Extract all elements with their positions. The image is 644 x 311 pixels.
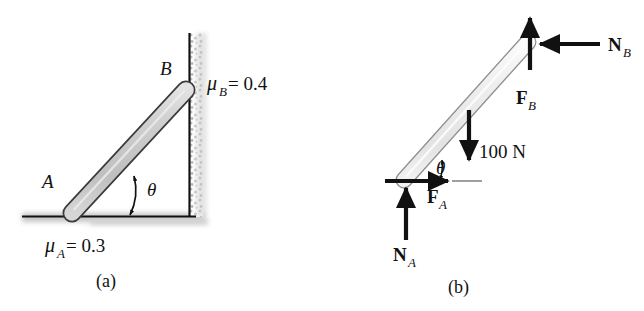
caption-panel-b: (b) xyxy=(448,277,469,298)
svg-text:F: F xyxy=(427,186,439,207)
svg-text:B: B xyxy=(219,84,227,99)
label-weight: 100 N xyxy=(479,141,526,162)
svg-text:μ: μ xyxy=(44,234,55,257)
angle-arc-a xyxy=(130,176,136,215)
label-force-fb: F B xyxy=(516,87,536,113)
svg-text:= 0.3: = 0.3 xyxy=(66,235,105,256)
label-angle-theta-a: θ xyxy=(147,179,156,200)
svg-text:B: B xyxy=(623,45,631,60)
panel-a: A B θ μ B = 0.4 μ A = 0.3 (a) xyxy=(22,33,268,292)
svg-text:N: N xyxy=(393,244,407,265)
label-mu-a: μ A = 0.3 xyxy=(44,234,105,261)
ground-shadow xyxy=(22,213,208,225)
caption-panel-a: (a) xyxy=(96,271,116,292)
svg-text:B: B xyxy=(528,98,536,113)
svg-text:μ: μ xyxy=(206,72,217,95)
label-normal-na: N A xyxy=(393,244,416,270)
panel-b: θ 100 N F B N B F A N A (b) xyxy=(385,18,631,298)
label-normal-nb: N B xyxy=(608,34,631,60)
ladder-rod-a xyxy=(72,90,186,213)
statics-figure: A B θ μ B = 0.4 μ A = 0.3 (a) xyxy=(0,0,644,311)
wall-texture xyxy=(190,33,207,217)
label-force-fa: F A xyxy=(427,186,447,212)
label-mu-b: μ B = 0.4 xyxy=(206,72,268,99)
svg-text:F: F xyxy=(516,87,528,108)
label-point-b: B xyxy=(160,58,172,79)
svg-text:A: A xyxy=(438,197,447,212)
svg-text:A: A xyxy=(56,246,65,261)
svg-text:N: N xyxy=(608,34,622,55)
svg-text:A: A xyxy=(407,255,416,270)
svg-text:= 0.4: = 0.4 xyxy=(228,73,268,94)
figure-root: A B θ μ B = 0.4 μ A = 0.3 (a) xyxy=(0,0,644,311)
label-angle-theta-b: θ xyxy=(436,157,445,178)
label-point-a: A xyxy=(40,171,54,192)
